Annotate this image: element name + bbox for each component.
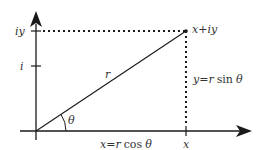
complex-plane-diagram: x+iy iy i r θ x y=rsinθ x=rcosθ — [0, 0, 267, 150]
i-label: i — [20, 60, 24, 73]
angle-label: θ — [68, 114, 75, 127]
radius-line — [36, 31, 186, 131]
point-label: x+iy — [192, 23, 218, 36]
radius-label: r — [105, 68, 111, 81]
iy-label: iy — [15, 25, 26, 38]
point-marker — [184, 29, 188, 33]
horizontal-leg-equation: x=rcosθ — [100, 138, 152, 150]
angle-arc — [61, 114, 66, 131]
vertical-leg-equation: y=rsinθ — [192, 73, 243, 86]
x-tick-label: x — [183, 138, 190, 150]
